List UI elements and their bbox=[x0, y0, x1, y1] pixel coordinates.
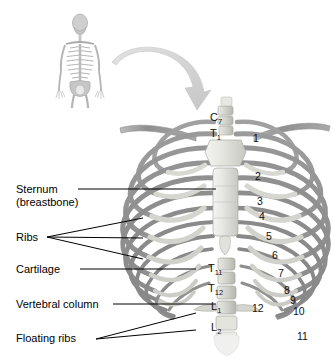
label-ribs: Ribs bbox=[16, 231, 38, 244]
rib-number-1: 1 bbox=[253, 133, 259, 144]
curved-arrow bbox=[112, 47, 211, 110]
vertebra-number: 1 bbox=[217, 133, 221, 142]
manubrium bbox=[205, 140, 246, 166]
vertebra-number: 1 bbox=[217, 306, 221, 315]
rib-number-11: 11 bbox=[297, 331, 308, 342]
rib-number-5: 5 bbox=[266, 231, 272, 242]
vertebra-label-t1: T1 bbox=[210, 128, 221, 143]
label-sternum-line2: (breastbone) bbox=[16, 196, 78, 209]
label-floating-ribs-text: Floating ribs bbox=[16, 332, 76, 345]
label-cartilage: Cartilage bbox=[16, 263, 60, 276]
rib-number-12: 12 bbox=[252, 303, 264, 314]
vertebra-letter: T bbox=[208, 262, 215, 274]
vertebra-label-t12: T12 bbox=[208, 283, 223, 298]
rib-number-2: 2 bbox=[255, 171, 261, 182]
vertebra-number: 2 bbox=[217, 327, 221, 336]
vertebra-label-l2: L2 bbox=[211, 322, 221, 337]
vertebra-number: 11 bbox=[215, 268, 223, 277]
vertebra-letter: T bbox=[210, 127, 217, 139]
vertebra-label-l1: L1 bbox=[211, 301, 221, 316]
xiphoid-process bbox=[220, 236, 231, 255]
rib-number-8: 8 bbox=[284, 285, 290, 296]
label-sternum: Sternum (breastbone) bbox=[16, 183, 78, 208]
label-sternum-line1: Sternum bbox=[16, 183, 78, 196]
vertebra-number: 7 bbox=[218, 117, 222, 126]
vertebra-letter: T bbox=[208, 282, 215, 294]
rib-number-4: 4 bbox=[259, 211, 265, 222]
vertebra-label-c7: C7 bbox=[210, 112, 222, 127]
label-cartilage-text: Cartilage bbox=[16, 263, 60, 276]
vertebra-letter: C bbox=[210, 111, 218, 123]
skeleton-inset-figure bbox=[56, 14, 104, 108]
label-vertebral-column: Vertebral column bbox=[16, 298, 99, 311]
vertebral-column bbox=[194, 258, 259, 356]
label-floating-ribs: Floating ribs bbox=[16, 332, 76, 345]
thoracic-cage bbox=[120, 97, 330, 356]
diagram-canvas: Sternum (breastbone) Ribs Cartilage Vert… bbox=[0, 0, 333, 357]
rib-number-10: 10 bbox=[293, 306, 305, 317]
rib-number-6: 6 bbox=[272, 250, 278, 261]
rib-number-3: 3 bbox=[257, 196, 263, 207]
vertebra-number: 12 bbox=[215, 288, 223, 297]
leader-floating-ribs-2 bbox=[96, 330, 196, 339]
leader-ribs-2 bbox=[47, 237, 143, 238]
leader-floating-ribs-1 bbox=[96, 313, 196, 339]
vertebra-label-t11: T11 bbox=[208, 263, 223, 278]
label-vertebral-column-text: Vertebral column bbox=[16, 298, 99, 311]
rib-number-7: 7 bbox=[278, 268, 284, 279]
label-ribs-text: Ribs bbox=[16, 231, 38, 244]
